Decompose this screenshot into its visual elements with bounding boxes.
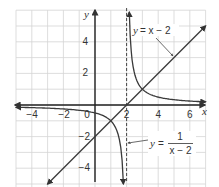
origin-label: 0 [84,109,90,120]
y-tick-label: −4 [79,162,91,173]
x-tick-label: −4 [26,109,38,120]
x-tick-label: 2 [124,109,130,120]
hyperbola-equation-pointer [128,140,148,143]
x-tick-label: −2 [58,109,70,120]
hyperbola-denominator: x − 2 [170,145,192,156]
y-tick-label: 4 [82,36,88,47]
x-axis-label: x [201,105,207,117]
rational-function-graph: −4 −2 0 2 4 6 4 2 −2 −4 y x y= x − 2 y= … [0,0,219,187]
x-tick-labels: −4 −2 0 2 4 6 [26,109,193,120]
line-equation-label: y= x − 2 [132,24,171,36]
x-tick-label: 4 [155,109,161,120]
grid [16,10,206,187]
x-tick-label: 6 [187,109,193,120]
y-axis-label: y [83,8,89,20]
y-tick-label: 2 [82,67,88,78]
line-equation-annotation: y= x − 2 [131,24,179,56]
y-tick-label: −2 [79,131,91,142]
hyperbola-numerator: 1 [177,131,183,142]
